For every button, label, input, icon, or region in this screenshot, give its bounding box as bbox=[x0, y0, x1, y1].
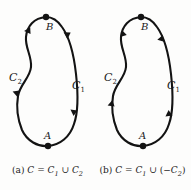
arc-label-c2-a: C2 bbox=[9, 72, 22, 86]
caption-a-union: ∪ bbox=[61, 165, 69, 175]
point-label-b-a: B bbox=[46, 22, 53, 32]
caption-b-c: C bbox=[115, 165, 122, 175]
point-label-b-b: B bbox=[141, 22, 148, 32]
caption-b-tag: (b) bbox=[100, 165, 113, 175]
point-dot-b-b bbox=[138, 14, 144, 20]
caption-b-c1-sub: 1 bbox=[142, 170, 146, 178]
caption-b-c2: C bbox=[171, 165, 178, 175]
caption-b-union: ∪ bbox=[149, 165, 157, 175]
caption-a-c2: C bbox=[72, 165, 79, 175]
point-dot-a-a bbox=[45, 143, 51, 149]
point-dot-b-a bbox=[43, 14, 49, 20]
caption-b: (b) C = C1 ∪ (−C2) bbox=[95, 166, 190, 178]
point-dot-a-b bbox=[140, 143, 146, 149]
caption-b-equals: = bbox=[125, 165, 133, 175]
arc-label-c1-a: C1 bbox=[72, 80, 85, 94]
arc-label-c1-b: C1 bbox=[167, 80, 180, 94]
caption-a-c2-sub: 2 bbox=[79, 170, 83, 178]
figure-root: B A C2 C1 (a) C = C1 ∪ C2 B A C2 C1 (b) … bbox=[0, 0, 191, 190]
caption-a-tag: (a) bbox=[12, 165, 24, 175]
figure-panel-b: B A C2 C1 (b) C = C1 ∪ (−C2) bbox=[95, 0, 190, 190]
arc-label-c1-a-sub: 1 bbox=[80, 86, 84, 94]
caption-b-minus: − bbox=[163, 165, 171, 175]
point-label-a-b: A bbox=[139, 131, 146, 141]
caption-a-equals: = bbox=[37, 165, 45, 175]
point-label-a-a: A bbox=[44, 131, 51, 141]
figure-panel-a: B A C2 C1 (a) C = C1 ∪ C2 bbox=[0, 0, 95, 190]
arc-label-c2-a-sub: 2 bbox=[17, 78, 21, 86]
caption-a: (a) C = C1 ∪ C2 bbox=[0, 166, 95, 178]
caption-a-c1-sub: 1 bbox=[54, 170, 58, 178]
caption-b-close-paren: ) bbox=[182, 165, 186, 175]
arc-label-c2-b: C2 bbox=[104, 72, 117, 86]
arc-label-c1-b-sub: 1 bbox=[175, 86, 179, 94]
arc-label-c2-b-sub: 2 bbox=[112, 78, 116, 86]
caption-a-c: C bbox=[27, 165, 34, 175]
arrow-c1-upper-a bbox=[63, 31, 71, 39]
